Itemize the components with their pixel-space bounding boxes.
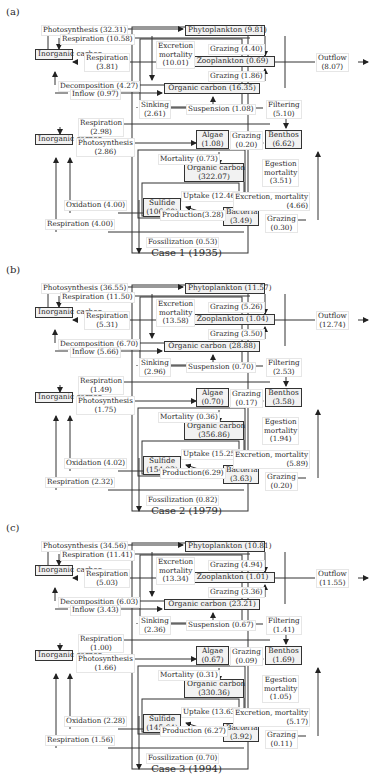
grazing-algae-label: Grazing(0.20) — [230, 131, 263, 150]
grazing-phytoplankton-label: Grazing (5.26) — [208, 302, 265, 313]
grazing-organic-carbon-label: Grazing (1.86) — [208, 71, 265, 82]
grazing-bacteria-label: Grazing(0.30) — [265, 214, 298, 233]
grazing-organic-carbon-label: Grazing (3.36) — [208, 587, 265, 598]
oxidation-label: Oxidation (2.28) — [64, 716, 127, 727]
outflow-label: Outflow(12.74) — [316, 311, 349, 330]
oxidation-label: Oxidation (4.00) — [64, 200, 127, 211]
respiration-upper-label: Respiration (10.58) — [60, 34, 135, 45]
production-label: Production(6.29) — [160, 468, 226, 479]
respiration-zooplankton-label: Respiration(5.03) — [84, 569, 130, 588]
mortality-label: Mortality (0.31) — [158, 670, 220, 681]
fossilization-label: Fossilization (0.82) — [146, 495, 219, 506]
panel-tag: (b) — [6, 264, 20, 275]
benthos-box: Benthos(6.62) — [265, 130, 302, 149]
phytoplankton-box: Phytoplankton (11.57) — [185, 283, 265, 294]
fossilization-label: Fossilization (0.70) — [146, 753, 219, 764]
phytoplankton-box: Phytoplankton (9.81) — [185, 25, 265, 36]
respiration-bottom-label: Respiration (4.00) — [45, 219, 115, 230]
excretion-bacteria-label: Excretion, mortality(5.89) — [233, 450, 310, 469]
phytoplankton-box: Phytoplankton (10.81) — [185, 541, 265, 552]
filtering-label: Filtering(1.41) — [266, 616, 302, 635]
inflow-label: Inflow (0.97) — [70, 89, 121, 100]
carbon-flow-panel-3: (c) Inorganic carbon Phytoplankton (10.8… — [0, 516, 373, 775]
filtering-label: Filtering(2.53) — [266, 358, 302, 377]
inorganic-carbon-lower-box: Inorganic carbon — [35, 650, 73, 661]
respiration-upper-label: Respiration (11.50) — [60, 292, 135, 303]
oxidation-label: Oxidation (4.02) — [64, 458, 127, 469]
sinking-label: Sinking(2.96) — [139, 358, 171, 377]
mortality-label: Mortality (0.36) — [158, 412, 220, 423]
respiration-lower-label: Respiration(1.49) — [78, 376, 124, 395]
production-label: Production (6.27) — [160, 726, 228, 737]
algae-box: Algae(0.70) — [196, 388, 229, 407]
respiration-upper-label: Respiration (11.41) — [60, 550, 135, 561]
grazing-organic-carbon-label: Grazing (3.50) — [208, 329, 265, 340]
egestion-mortality-label: Egestionmortality(1.94) — [262, 417, 299, 445]
filtering-label: Filtering(5.10) — [266, 100, 302, 119]
carbon-flow-panel-1: (a) Inorganic carbon Phytoplankton (9.81… — [0, 0, 373, 259]
inorganic-carbon-upper-box: Inorganic carbon — [35, 49, 73, 60]
organic-carbon-sediment-box: Organic carbon(322.07) — [184, 163, 244, 182]
excretion-bacteria-label: Excretion, mortality(4.66) — [233, 192, 310, 211]
grazing-algae-label: Grazing(0.17) — [230, 389, 263, 408]
respiration-lower-label: Respiration(2.98) — [78, 118, 124, 137]
inorganic-carbon-lower-box: Inorganic carbon — [35, 134, 73, 145]
case-caption: Case 1 (1935) — [0, 247, 373, 258]
organic-carbon-water-box: Organic carbon (23.21) — [164, 599, 260, 610]
benthos-box: Benthos(1.69) — [265, 646, 302, 665]
inorganic-carbon-lower-box: Inorganic carbon — [35, 392, 73, 403]
organic-carbon-water-box: Organic carbon (16.35) — [164, 83, 260, 94]
sinking-label: Sinking(2.36) — [139, 616, 171, 635]
uptake-label: Uptake (13.63) — [181, 707, 240, 718]
suspension-label: Suspension (0.67) — [186, 620, 256, 631]
organic-carbon-sediment-box: Organic carbon(330.36) — [184, 679, 244, 698]
suspension-label: Suspension (0.70) — [186, 362, 256, 373]
zooplankton-box: Zooplankton (1.04) — [190, 314, 275, 325]
grazing-algae-label: Grazing(0.09) — [230, 647, 263, 666]
mortality-label: Mortality (0.73) — [158, 154, 220, 165]
egestion-mortality-label: Egestionmortality(3.51) — [262, 159, 299, 187]
outflow-label: Outflow(11.55) — [316, 569, 349, 588]
excretion-mortality-label: Excretionmortality(13.34) — [156, 557, 195, 585]
zooplankton-box: Zooplankton (0.69) — [190, 56, 275, 67]
uptake-label: Uptake (12.46) — [181, 191, 240, 202]
photosynthesis-lower-label: Photosynthesis(2.86) — [76, 138, 135, 157]
photosynthesis-lower-label: Photosynthesis(1.75) — [76, 396, 135, 415]
fossilization-label: Fossilization (0.53) — [146, 237, 219, 248]
suspension-label: Suspension (1.08) — [186, 104, 256, 115]
grazing-phytoplankton-label: Grazing (4.94) — [208, 560, 265, 571]
egestion-mortality-label: Egestionmortality(1.05) — [262, 675, 299, 703]
case-caption: Case 3 (1994) — [0, 763, 373, 774]
excretion-bacteria-label: Excretion, mortality(5.17) — [233, 708, 310, 727]
production-label: Production(3.28) — [160, 210, 226, 221]
respiration-zooplankton-label: Respiration(3.81) — [84, 53, 130, 72]
algae-box: Algae(1.08) — [196, 130, 229, 149]
panel-tag: (a) — [6, 6, 20, 17]
outflow-label: Outflow(8.07) — [316, 53, 349, 72]
sinking-label: Sinking(2.61) — [139, 100, 171, 119]
excretion-mortality-label: Excretionmortality(10.01) — [156, 41, 195, 69]
inflow-label: Inflow (3.43) — [70, 605, 121, 616]
organic-carbon-water-box: Organic carbon (28.88) — [164, 341, 260, 352]
grazing-phytoplankton-label: Grazing (4.40) — [208, 44, 265, 55]
panel-tag: (c) — [6, 522, 19, 533]
excretion-mortality-label: Excretionmortality(13.58) — [156, 299, 195, 327]
respiration-zooplankton-label: Respiration(5.31) — [84, 311, 130, 330]
inorganic-carbon-upper-box: Inorganic carbon — [35, 307, 73, 318]
respiration-lower-label: Respiration(1.00) — [78, 634, 124, 653]
photosynthesis-lower-label: Photosynthesis(1.66) — [76, 654, 135, 673]
grazing-bacteria-label: Grazing(0.11) — [265, 730, 298, 749]
respiration-bottom-label: Respiration (2.32) — [45, 477, 115, 488]
carbon-flow-panel-2: (b) Inorganic carbon Phytoplankton (11.5… — [0, 258, 373, 517]
organic-carbon-sediment-box: Organic carbon(356.86) — [184, 421, 244, 440]
grazing-bacteria-label: Grazing(0.20) — [265, 472, 298, 491]
zooplankton-box: Zooplankton (1.01) — [190, 572, 275, 583]
case-caption: Case 2 (1979) — [0, 505, 373, 516]
uptake-label: Uptake (15.25) — [181, 449, 240, 460]
inorganic-carbon-upper-box: Inorganic carbon — [35, 565, 73, 576]
inflow-label: Inflow (5.66) — [70, 347, 121, 358]
respiration-bottom-label: Respiration (1.56) — [45, 735, 115, 746]
benthos-box: Benthos(3.58) — [265, 388, 302, 407]
algae-box: Algae(0.67) — [196, 646, 229, 665]
